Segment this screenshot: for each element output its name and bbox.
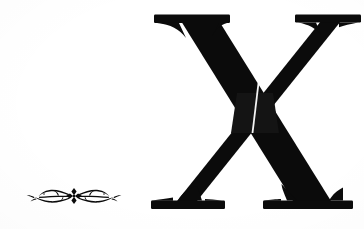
ornament-ink-group (27, 188, 122, 204)
ornament-left-wing (27, 190, 70, 203)
chapter-initial-capital-x: X Large black serif capital letter X wit… (145, 5, 361, 225)
floral-flourish-ornament: Small horizontal typographic flourish: a… (22, 180, 126, 212)
initial-x-ink-group (151, 15, 361, 210)
initial-x-svg (145, 5, 361, 225)
ornament-svg (22, 180, 126, 212)
ornament-right-wing (78, 190, 121, 203)
scanned-page: Small horizontal typographic flourish: a… (0, 0, 364, 229)
